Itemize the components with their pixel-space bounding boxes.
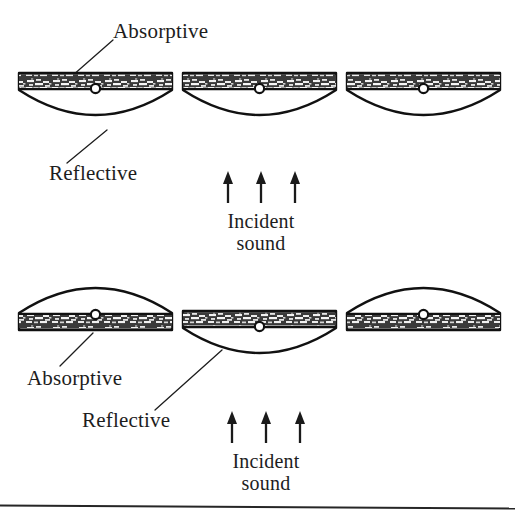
leader-reflective-top — [67, 130, 107, 163]
incident-arrows-top — [223, 171, 300, 203]
label-incident-top-line1: Incident — [227, 210, 294, 232]
label-incident-bottom-line1: Incident — [232, 450, 299, 472]
up-arrow-icon — [261, 411, 271, 443]
up-arrow-icon — [227, 411, 237, 443]
label-absorptive-bottom: Absorptive — [27, 366, 122, 390]
figure-canvas: Absorptive Reflective Incident sound — [0, 0, 515, 518]
label-incident-top-line2: sound — [237, 232, 286, 254]
label-reflective-bottom: Reflective — [82, 408, 170, 432]
up-arrow-icon — [290, 171, 300, 203]
top-panel-1[interactable] — [19, 73, 172, 115]
leader-reflective-bottom — [155, 350, 222, 410]
top-panel-3[interactable] — [347, 73, 500, 115]
up-arrow-icon — [223, 171, 233, 203]
pivot-circle-icon[interactable] — [419, 84, 428, 93]
label-absorptive-top: Absorptive — [113, 19, 208, 43]
acoustic-panel-figure: Absorptive Reflective Incident sound — [0, 0, 515, 518]
pivot-circle-icon[interactable] — [255, 84, 264, 93]
up-arrow-icon — [256, 171, 266, 203]
horizontal-rule — [0, 506, 515, 509]
pivot-circle-icon[interactable] — [419, 310, 428, 319]
bottom-panel-3[interactable] — [347, 288, 500, 330]
bottom-panel-1[interactable] — [19, 288, 172, 330]
leader-absorptive-bottom — [60, 333, 93, 366]
incident-arrows-bottom — [227, 411, 305, 443]
label-incident-bottom-line2: sound — [242, 472, 291, 494]
top-panel-2[interactable] — [183, 73, 336, 115]
pivot-circle-icon[interactable] — [255, 322, 264, 331]
row-bottom: Absorptive Reflective Incident sound — [19, 288, 500, 494]
pivot-circle-icon[interactable] — [91, 310, 100, 319]
row-top: Absorptive Reflective Incident sound — [19, 19, 500, 254]
leader-absorptive-top — [72, 40, 113, 76]
bottom-panel-2[interactable] — [183, 311, 336, 353]
pivot-circle-icon[interactable] — [91, 84, 100, 93]
up-arrow-icon — [295, 411, 305, 443]
label-reflective-top: Reflective — [49, 161, 137, 185]
